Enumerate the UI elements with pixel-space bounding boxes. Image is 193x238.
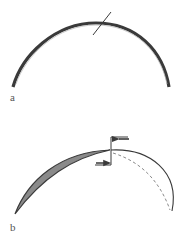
arc-band-outer [13, 23, 169, 87]
dashed-arc-right [113, 153, 170, 210]
solid-arc-right [111, 150, 173, 211]
arrow-right-icon [96, 161, 109, 165]
arc-band-inner-highlight [16, 25, 167, 84]
diagram-canvas: a b [0, 0, 193, 238]
panel-b-label: b [10, 221, 16, 233]
panel-a: a [10, 12, 169, 103]
panel-a-label: a [10, 91, 15, 103]
shaded-crescent [15, 150, 110, 214]
panel-b: b [10, 137, 173, 233]
